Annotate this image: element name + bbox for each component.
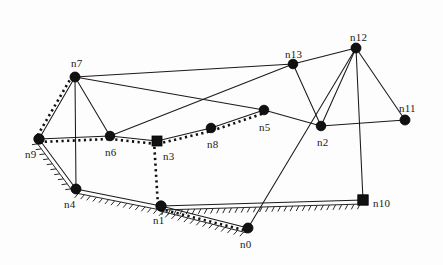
- hatch-tick: [174, 210, 177, 215]
- hatch-baseline: [160, 211, 247, 233]
- hatch-tick: [105, 200, 109, 204]
- node-label-n0: n0: [240, 239, 251, 250]
- edge-n8-n5: [211, 110, 264, 128]
- hatch-tick: [117, 202, 121, 206]
- hatch-tick: [308, 206, 311, 211]
- hatch-tick: [47, 164, 53, 165]
- hatched-path-b: [159, 211, 247, 236]
- hatch-tick: [178, 216, 182, 220]
- hatch-tick: [302, 206, 305, 211]
- hatch-tick: [247, 207, 250, 212]
- node-label-n5: n5: [259, 122, 270, 133]
- node-label-n11: n11: [399, 103, 416, 114]
- hatched-path-a: [32, 141, 363, 215]
- edge-n2-n12: [321, 48, 356, 126]
- node-label-n2: n2: [317, 137, 328, 148]
- hatch-tick: [87, 196, 91, 200]
- node-n12[interactable]: [351, 43, 361, 53]
- hatch-tick: [345, 204, 348, 209]
- hatch-tick: [62, 184, 68, 185]
- hatch-tick: [229, 208, 232, 213]
- hatch-tick: [209, 224, 213, 228]
- hatch-tick: [221, 227, 225, 231]
- node-n10[interactable]: [358, 195, 368, 205]
- hatch-baseline: [75, 193, 160, 210]
- node-label-n6: n6: [105, 147, 116, 158]
- hatch-tick: [135, 206, 139, 210]
- edge-n3-n8: [157, 128, 211, 141]
- dotted-segment: [39, 139, 110, 142]
- hatch-tick: [165, 213, 169, 217]
- edge-n7-n5: [75, 77, 264, 110]
- dotted-segment: [154, 141, 158, 206]
- hatch-tick: [240, 232, 244, 236]
- node-n11[interactable]: [400, 115, 410, 125]
- node-n3[interactable]: [152, 136, 162, 146]
- node-label-n7: n7: [71, 58, 82, 69]
- hatch-tick: [321, 205, 324, 210]
- node-n4[interactable]: [71, 184, 81, 194]
- node-label-n1: n1: [153, 215, 164, 226]
- edge-n9-n6: [39, 136, 110, 139]
- hatch-tick: [180, 209, 183, 214]
- hatch-tick: [43, 159, 49, 160]
- dotted-path-a: [36, 75, 265, 143]
- overlay-layer: [32, 75, 363, 236]
- hatch-tick: [272, 207, 275, 212]
- hatch-tick: [211, 208, 214, 213]
- hatch-tick: [190, 219, 194, 223]
- node-label-n4: n4: [64, 199, 75, 210]
- node-n5[interactable]: [259, 105, 269, 115]
- hatch-tick: [65, 189, 71, 190]
- hatch-tick: [284, 206, 287, 211]
- edge-n9-n4: [39, 139, 76, 189]
- graph-svg: [0, 0, 443, 265]
- node-label-n12: n12: [350, 32, 367, 43]
- hatch-tick: [111, 201, 115, 205]
- edge-n7-n6: [75, 77, 110, 136]
- hatch-tick: [50, 169, 56, 170]
- hatch-tick: [192, 209, 195, 214]
- hatch-tick: [223, 208, 226, 213]
- hatch-tick: [235, 208, 238, 213]
- node-label-n9: n9: [25, 149, 36, 160]
- edge-n2-n13: [293, 64, 321, 126]
- edge-n2-n11: [321, 120, 405, 126]
- node-n6[interactable]: [105, 131, 115, 141]
- hatch-tick: [217, 208, 220, 213]
- dotted-segment: [212, 113, 265, 131]
- edge-n4-n7: [75, 77, 76, 189]
- node-n0[interactable]: [243, 223, 253, 233]
- hatch-tick: [215, 226, 219, 230]
- hatch-tick: [36, 149, 42, 150]
- hatch-tick: [129, 204, 133, 208]
- node-n2[interactable]: [316, 121, 326, 131]
- hatch-tick: [253, 207, 256, 212]
- hatch-tick: [171, 215, 175, 219]
- edges-layer: [39, 48, 405, 228]
- hatch-tick: [278, 206, 281, 211]
- node-n9[interactable]: [34, 134, 44, 144]
- hatch-tick: [202, 223, 206, 227]
- hatch-tick: [147, 208, 151, 212]
- graph-canvas: n0n1n2n3n4n5n6n7n8n9n10n11n12n13: [0, 0, 443, 265]
- hatch-tick: [81, 195, 85, 199]
- hatch-tick: [227, 229, 231, 233]
- hatch-tick: [339, 205, 342, 210]
- dotted-segment: [160, 209, 247, 231]
- node-n8[interactable]: [206, 123, 216, 133]
- hatch-tick: [315, 205, 318, 210]
- hatch-tick: [99, 198, 103, 202]
- node-n7[interactable]: [70, 72, 80, 82]
- node-label-n13: n13: [285, 49, 302, 60]
- edge-n12-n11: [356, 48, 405, 120]
- hatch-tick: [333, 205, 336, 210]
- hatch-tick: [234, 230, 238, 234]
- hatch-tick: [204, 209, 207, 214]
- edge-n7-n13: [75, 64, 293, 77]
- hatch-tick: [184, 218, 188, 222]
- hatch-tick: [266, 207, 269, 212]
- hatch-tick: [54, 174, 60, 175]
- node-n13[interactable]: [288, 59, 298, 69]
- node-n1[interactable]: [156, 201, 166, 211]
